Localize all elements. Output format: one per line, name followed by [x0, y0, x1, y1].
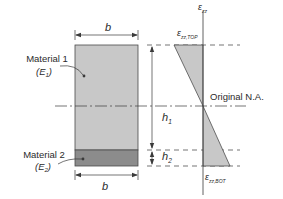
composite-beam-diagram: b b Material 1 (E1) Material 2 (E2) Orig…: [0, 0, 283, 199]
compressive-strain-region: [174, 45, 203, 106]
h2-label: h2: [162, 150, 172, 164]
width-label-top: b: [105, 21, 111, 33]
cross-section: [75, 45, 138, 166]
neutral-axis-label: Original N.A.: [210, 91, 264, 102]
material-2-label: Material 2: [23, 149, 65, 160]
height-dimensions: h1 h2: [152, 47, 172, 164]
material-1-modulus: (E1): [36, 66, 52, 78]
strain-top-label: εzz,TOP: [177, 28, 198, 40]
width-label-bottom: b: [102, 180, 108, 192]
h1-label: h1: [162, 111, 172, 125]
material-1-label: Material 1: [26, 53, 68, 64]
bottom-width-dimension: b: [75, 170, 138, 192]
strain-axis-label: εzz: [198, 2, 207, 14]
material-2-region: [75, 150, 138, 166]
material-2-modulus: (E2): [35, 161, 51, 173]
tensile-strain-region: [203, 106, 230, 166]
top-width-dimension: b: [75, 21, 138, 40]
strain-bottom-label: εzz,BOT: [205, 172, 227, 184]
material-1-region: [75, 45, 138, 150]
